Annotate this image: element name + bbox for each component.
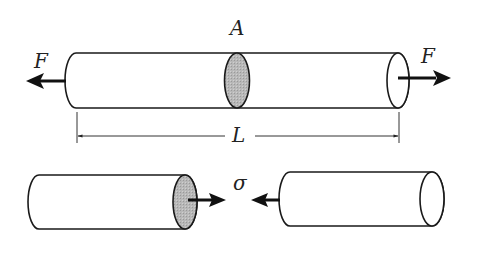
- left-force-arrow: [26, 73, 66, 89]
- right-force-label: F: [420, 44, 436, 68]
- top-bar: [65, 53, 409, 108]
- stress-arrow-left: [251, 193, 280, 207]
- left-force-label: F: [33, 49, 49, 73]
- bottom-right-end-face: [420, 172, 444, 226]
- length-label: L: [231, 123, 245, 147]
- stress-label-sigma: σ: [233, 171, 248, 195]
- section-label-a: A: [228, 16, 244, 40]
- axial-bar-diagram: A F F L σ: [0, 0, 481, 256]
- cross-section-a: [225, 53, 250, 108]
- top-bar-right-end: [387, 53, 409, 108]
- bottom-right-piece: [279, 172, 444, 226]
- bottom-left-cut-face: [173, 175, 197, 229]
- bottom-left-body: [28, 175, 197, 229]
- bottom-left-piece: [28, 175, 197, 229]
